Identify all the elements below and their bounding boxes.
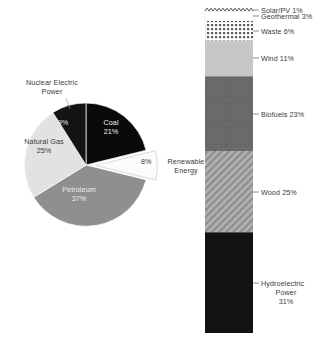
pie-label-nuclear-line1: Nuclear Electric	[4, 78, 100, 87]
bar-callout-ticks	[253, 10, 259, 283]
bar-label-hydro-line1: Hydroelectric	[261, 279, 317, 288]
bar-segment-wood[interactable]	[205, 151, 253, 232]
pie-label-coal-percent: 21%	[92, 127, 130, 136]
bar-label-biofuels: Biofuels 23%	[261, 110, 304, 119]
bar-segment-hydroelectric-power[interactable]	[205, 232, 253, 333]
bar-label-wind: Wind 11%	[261, 54, 294, 63]
pie-label-nuclear-electric-power: Nuclear Electric Power	[4, 78, 100, 96]
pie-label-nuclear-line2: Power	[4, 87, 100, 96]
pie-label-coal: Coal 21%	[92, 118, 130, 136]
stacked-bar-chart: Solar/PV 1% Geothermal 3% Waste 6% Wind …	[195, 0, 322, 351]
bar-segment-geothermal[interactable]	[205, 11, 253, 21]
bar-label-hydro-percent: 31%	[261, 297, 311, 306]
bar-label-geothermal: Geothermal 3%	[261, 12, 312, 21]
bar-segment-biofuels[interactable]	[205, 76, 253, 151]
pie-label-petroleum: Petroleum 37%	[43, 185, 115, 203]
pie-label-petroleum-percent: 37%	[43, 194, 115, 203]
pie-label-renewable-percent: 8%	[141, 157, 152, 166]
bar-segment-solar-pv[interactable]	[205, 8, 253, 11]
bar-segment-wind[interactable]	[205, 41, 253, 77]
pie-label-coal-name: Coal	[92, 118, 130, 127]
energy-figure: Nuclear Electric Power 9% Coal 21% Natur…	[0, 0, 322, 351]
bar-segment-waste[interactable]	[205, 21, 253, 41]
bar-label-hydroelectric-power: Hydroelectric Power 31%	[261, 279, 317, 306]
pie-label-natural-gas-percent: 25%	[8, 146, 80, 155]
pie-label-petroleum-name: Petroleum	[43, 185, 115, 194]
pie-label-natural-gas-name: Natural Gas	[8, 137, 80, 146]
pie-label-natural-gas: Natural Gas 25%	[8, 137, 80, 155]
bar-label-waste: Waste 6%	[261, 27, 294, 36]
pie-chart: Nuclear Electric Power 9% Coal 21% Natur…	[0, 80, 195, 255]
bar-label-hydro-line2: Power	[261, 288, 311, 297]
bar-label-wood: Wood 25%	[261, 188, 297, 197]
pie-label-nuclear-percent: 9%	[52, 118, 74, 127]
